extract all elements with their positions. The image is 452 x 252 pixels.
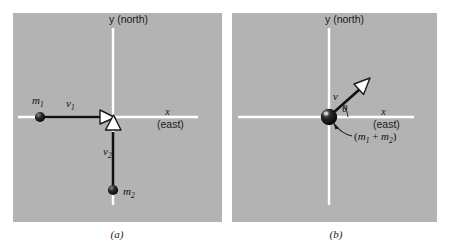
panel-b-caption: (b) bbox=[316, 228, 356, 240]
panel-b-combined-mass-highlight bbox=[324, 112, 329, 116]
panel-b-x-axis-sublabel: (east) bbox=[373, 118, 400, 130]
panel-b-velocity-label: v bbox=[333, 90, 338, 102]
panel-b-x-axis-letter: x bbox=[380, 105, 386, 117]
panel-b-graphics: y (north) x (east) v θ (m1 + m2) bbox=[0, 0, 452, 252]
panel-b-y-axis-label: y (north) bbox=[325, 13, 364, 25]
panel-b-combined-mass-label: (m1 + m2) bbox=[354, 130, 397, 145]
panel-b-angle-label: θ bbox=[342, 102, 348, 114]
panel-a-caption: (a) bbox=[97, 228, 137, 240]
panel-b-combined-mass-ball bbox=[321, 109, 337, 125]
collision-figure: y (north) x (east) m1 v1 v2 m2 bbox=[0, 0, 452, 252]
